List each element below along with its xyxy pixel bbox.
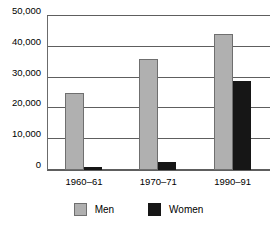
y-axis-line xyxy=(47,16,48,171)
chart-legend: MenWomen xyxy=(0,203,277,216)
y-tick-label: 50,000 xyxy=(0,6,41,16)
x-axis-line xyxy=(47,170,270,171)
x-category-label: 1970–71 xyxy=(118,175,198,189)
bar-group xyxy=(196,16,270,170)
legend-label: Women xyxy=(169,204,203,216)
x-axis-category-labels: 1960–611970–711990–91 xyxy=(47,175,270,191)
y-tick-label: 0 xyxy=(0,160,41,170)
legend-swatch-men xyxy=(74,203,87,216)
bar-women xyxy=(233,81,251,170)
y-tick-label: 10,000 xyxy=(0,129,41,139)
bar-men xyxy=(139,59,158,170)
legend-label: Men xyxy=(95,204,114,216)
bar-group xyxy=(121,16,195,170)
legend-item-women[interactable]: Women xyxy=(148,203,203,216)
legend-swatch-women xyxy=(148,203,161,216)
bar-women xyxy=(158,162,176,170)
y-tick-label: 30,000 xyxy=(0,68,41,78)
plot-area xyxy=(47,16,270,170)
bar-chart: 010,00020,00030,00040,00050,000 1960–611… xyxy=(0,0,277,231)
x-category-label: 1960–61 xyxy=(44,175,124,189)
y-tick-label: 40,000 xyxy=(0,37,41,47)
bar-men xyxy=(65,93,84,170)
x-category-label: 1990–91 xyxy=(193,175,273,189)
legend-item-men[interactable]: Men xyxy=(74,203,114,216)
bar-group xyxy=(47,16,121,170)
bar-men xyxy=(214,34,233,170)
y-tick-label: 20,000 xyxy=(0,98,41,108)
